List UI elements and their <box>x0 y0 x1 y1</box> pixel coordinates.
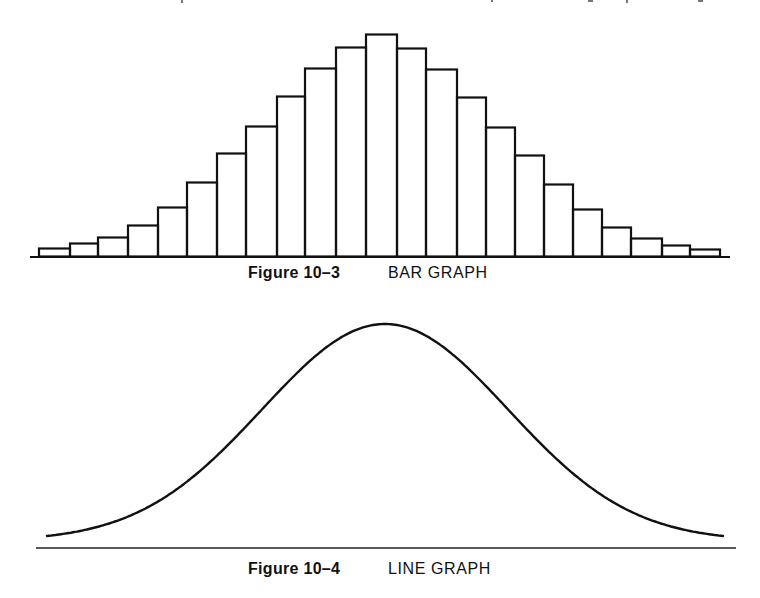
bar <box>397 49 426 257</box>
bar <box>305 69 336 257</box>
bar <box>39 249 70 257</box>
bar <box>573 210 602 257</box>
figure-title: LINE GRAPH <box>388 561 491 577</box>
bar <box>336 48 366 257</box>
bar <box>515 156 544 257</box>
bar <box>158 208 187 257</box>
bar <box>457 98 486 257</box>
figure-number-label: Figure 10–4 <box>248 560 340 577</box>
figure-number-label: Figure 10–3 <box>248 264 340 281</box>
figure-caption-line-graph: Figure 10–4 LINE GRAPH <box>248 561 340 577</box>
bar <box>486 128 515 257</box>
bar <box>128 226 158 257</box>
bar <box>426 70 457 257</box>
bar <box>277 97 305 257</box>
bar <box>690 250 720 257</box>
bar-graph <box>39 35 720 257</box>
bar <box>70 244 98 257</box>
line-graph-curve <box>47 324 723 536</box>
bar <box>366 35 397 257</box>
figure-title: BAR GRAPH <box>388 265 488 281</box>
page-top-text-fragments <box>181 0 703 3</box>
figure-caption-bar-graph: Figure 10–3 BAR GRAPH <box>248 265 340 281</box>
bar <box>602 228 631 257</box>
bar <box>246 127 277 257</box>
figures-canvas <box>0 0 760 598</box>
bar <box>544 185 573 257</box>
bar <box>662 246 690 257</box>
bar <box>98 238 128 257</box>
bar <box>631 239 662 257</box>
bar <box>217 154 246 257</box>
bar <box>187 183 217 257</box>
